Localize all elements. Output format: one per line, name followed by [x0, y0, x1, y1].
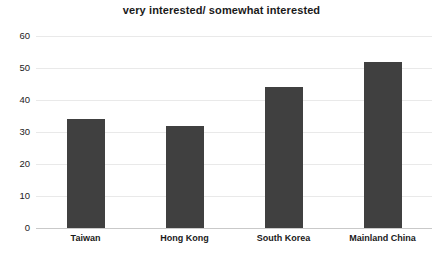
axis-baseline — [36, 228, 432, 229]
bar[interactable] — [67, 119, 105, 228]
y-axis-tick-label: 30 — [0, 127, 30, 137]
y-axis-tick-label: 0 — [0, 223, 30, 233]
bar[interactable] — [166, 126, 204, 228]
x-axis-tick-label: Hong Kong — [160, 232, 209, 244]
x-axis-tick-label: South Korea — [257, 232, 311, 244]
y-axis-tick-label: 20 — [0, 159, 30, 169]
x-axis-tick-label: Mainland China — [349, 232, 416, 244]
x-axis-tick-labels: TaiwanHong KongSouth KoreaMainland China — [36, 232, 432, 248]
chart-title: very interested/ somewhat interested — [0, 4, 443, 16]
y-axis-tick-label: 10 — [0, 191, 30, 201]
y-axis-tick-label: 40 — [0, 95, 30, 105]
bar-chart: very interested/ somewhat interested 010… — [0, 0, 443, 260]
bar[interactable] — [265, 87, 303, 228]
y-axis-tick-labels: 0102030405060 — [0, 36, 30, 228]
bar-series — [36, 36, 432, 228]
x-axis-tick-label: Taiwan — [71, 232, 101, 244]
y-axis-tick-label: 60 — [0, 31, 30, 41]
bar[interactable] — [364, 62, 402, 228]
y-axis-tick-label: 50 — [0, 63, 30, 73]
plot-area — [36, 36, 432, 228]
